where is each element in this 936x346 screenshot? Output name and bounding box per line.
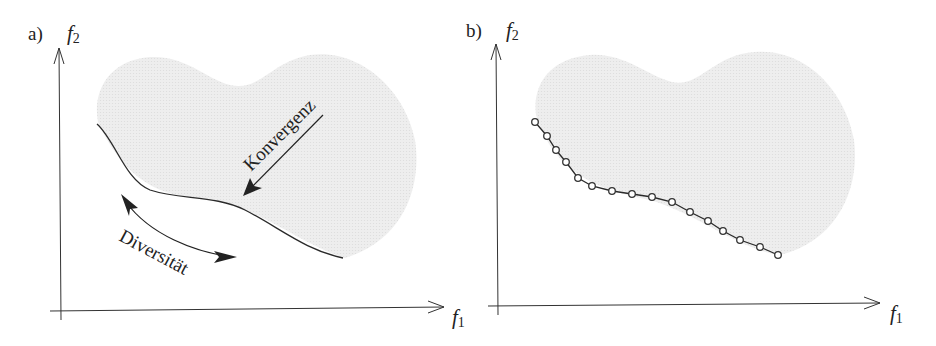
solution-point	[532, 119, 539, 126]
y-axis	[59, 48, 61, 320]
x-axis	[50, 307, 444, 311]
y-axis	[496, 44, 498, 315]
solution-point	[720, 228, 727, 235]
solution-point	[687, 209, 694, 216]
x-axis	[488, 303, 880, 306]
solution-point	[575, 175, 582, 182]
solution-point	[553, 147, 560, 154]
panel-a-label: a)	[28, 23, 43, 45]
panel-b: b) f2 f1	[466, 18, 903, 326]
solution-point	[589, 183, 596, 190]
feasible-region	[535, 52, 855, 255]
panel-a: a) f2 f1 Konvergenz Diversität	[28, 21, 465, 330]
solution-point	[609, 188, 616, 195]
y-axis-label: f2	[506, 18, 519, 43]
panel-b-label: b)	[466, 20, 482, 42]
solution-point	[649, 194, 656, 201]
y-axis-label: f2	[67, 21, 80, 46]
solution-point	[737, 237, 744, 244]
x-axis-label: f1	[890, 301, 903, 326]
solution-point	[757, 244, 764, 251]
solution-point	[629, 191, 636, 198]
diversity-arrowhead-end-icon	[214, 251, 237, 263]
diversity-label: Diversität	[116, 225, 193, 279]
solution-point	[563, 159, 570, 166]
solution-point	[544, 133, 551, 140]
solution-point	[775, 252, 782, 259]
x-axis-label: f1	[452, 305, 465, 330]
solution-point	[705, 218, 712, 225]
figure-canvas: a) f2 f1 Konvergenz Diversität b) f2 f1	[0, 0, 936, 346]
solution-point	[669, 199, 676, 206]
